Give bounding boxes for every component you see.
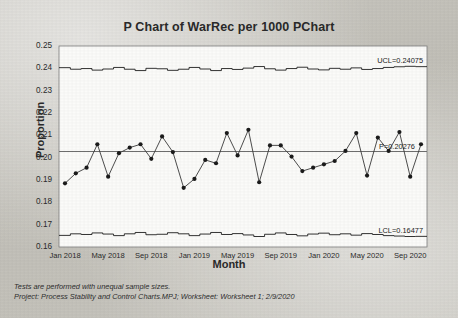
data-point <box>182 186 186 190</box>
data-point <box>397 130 401 134</box>
ucl-label: UCL=0.24075 <box>377 56 423 65</box>
data-point <box>74 171 78 175</box>
data-point <box>160 134 164 138</box>
data-point <box>311 166 315 170</box>
data-point <box>214 161 218 165</box>
data-point <box>117 151 121 155</box>
data-point <box>63 181 67 185</box>
footnote-project: Project: Process Stability and Control C… <box>14 292 295 301</box>
data-point <box>289 154 293 158</box>
data-point <box>171 150 175 154</box>
data-point <box>419 142 423 146</box>
data-point <box>246 128 250 132</box>
plot-canvas: UCL=0.24075 LCL=0.16477 P=0.20276 <box>6 6 452 298</box>
data-point <box>138 142 142 146</box>
footnote-tests: Tests are performed with unequal sample … <box>14 282 170 291</box>
data-point <box>268 143 272 147</box>
plot-area <box>59 46 427 247</box>
data-point <box>354 131 358 135</box>
data-point <box>236 153 240 157</box>
data-point <box>192 177 196 181</box>
data-point <box>257 180 261 184</box>
data-point <box>365 173 369 177</box>
center-line-label: P=0.20276 <box>379 142 415 151</box>
data-point <box>376 135 380 139</box>
data-point <box>322 162 326 166</box>
data-point <box>84 166 88 170</box>
data-point <box>128 146 132 150</box>
data-point <box>95 142 99 146</box>
data-point <box>106 175 110 179</box>
data-point <box>343 149 347 153</box>
data-point <box>225 131 229 135</box>
data-point <box>149 157 153 161</box>
lcl-label: LCL=0.16477 <box>378 226 423 235</box>
data-point <box>279 143 283 147</box>
p-chart-figure: P Chart of WarRec per 1000 PChart Propor… <box>6 6 452 298</box>
data-point <box>408 175 412 179</box>
data-point <box>300 169 304 173</box>
data-point <box>333 159 337 163</box>
data-point <box>203 158 207 162</box>
